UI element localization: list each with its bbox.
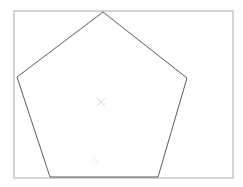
faint-lower-mark-icon — [93, 159, 98, 164]
geometry-figure-svg — [0, 0, 243, 187]
bounding-rectangle — [14, 11, 233, 178]
centroid-cross-icon — [97, 98, 105, 106]
figure-canvas — [0, 0, 243, 187]
pentagon-shape — [17, 12, 187, 177]
